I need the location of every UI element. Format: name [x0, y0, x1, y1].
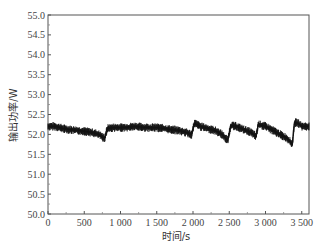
- x-tick-label: 0: [46, 217, 51, 228]
- x-axis-title: 时间/s: [162, 230, 191, 242]
- x-tick-label: 1 500: [146, 217, 169, 228]
- y-axis-title: 输出功率/W: [7, 88, 19, 141]
- y-tick-label: 54.0: [28, 49, 46, 60]
- y-tick-label: 50.5: [28, 189, 46, 200]
- y-tick-label: 55.0: [28, 10, 46, 21]
- x-tick-label: 2 000: [182, 217, 205, 228]
- series-noise-band: [48, 118, 309, 146]
- y-tick-label: 54.5: [28, 29, 46, 40]
- x-tick-label: 3 000: [254, 217, 277, 228]
- y-tick-label: 52.0: [28, 129, 46, 140]
- y-tick-label: 50.0: [28, 209, 46, 220]
- x-tick-label: 3 500: [291, 217, 314, 228]
- y-tick-label: 51.0: [28, 169, 46, 180]
- y-tick-label: 52.5: [28, 109, 46, 120]
- y-tick-label: 51.5: [28, 149, 46, 160]
- plot-area: [48, 15, 309, 214]
- x-tick-label: 500: [77, 217, 92, 228]
- plot-border: [48, 15, 309, 214]
- y-axis: 50.050.551.051.552.052.553.053.554.054.5…: [28, 10, 52, 220]
- y-tick-label: 53.0: [28, 89, 46, 100]
- x-tick-label: 2 500: [218, 217, 241, 228]
- y-tick-label: 53.5: [28, 69, 46, 80]
- x-tick-label: 1 000: [109, 217, 132, 228]
- data-series: [48, 118, 309, 146]
- power-time-chart: 50.050.551.051.552.052.553.053.554.054.5…: [0, 0, 323, 251]
